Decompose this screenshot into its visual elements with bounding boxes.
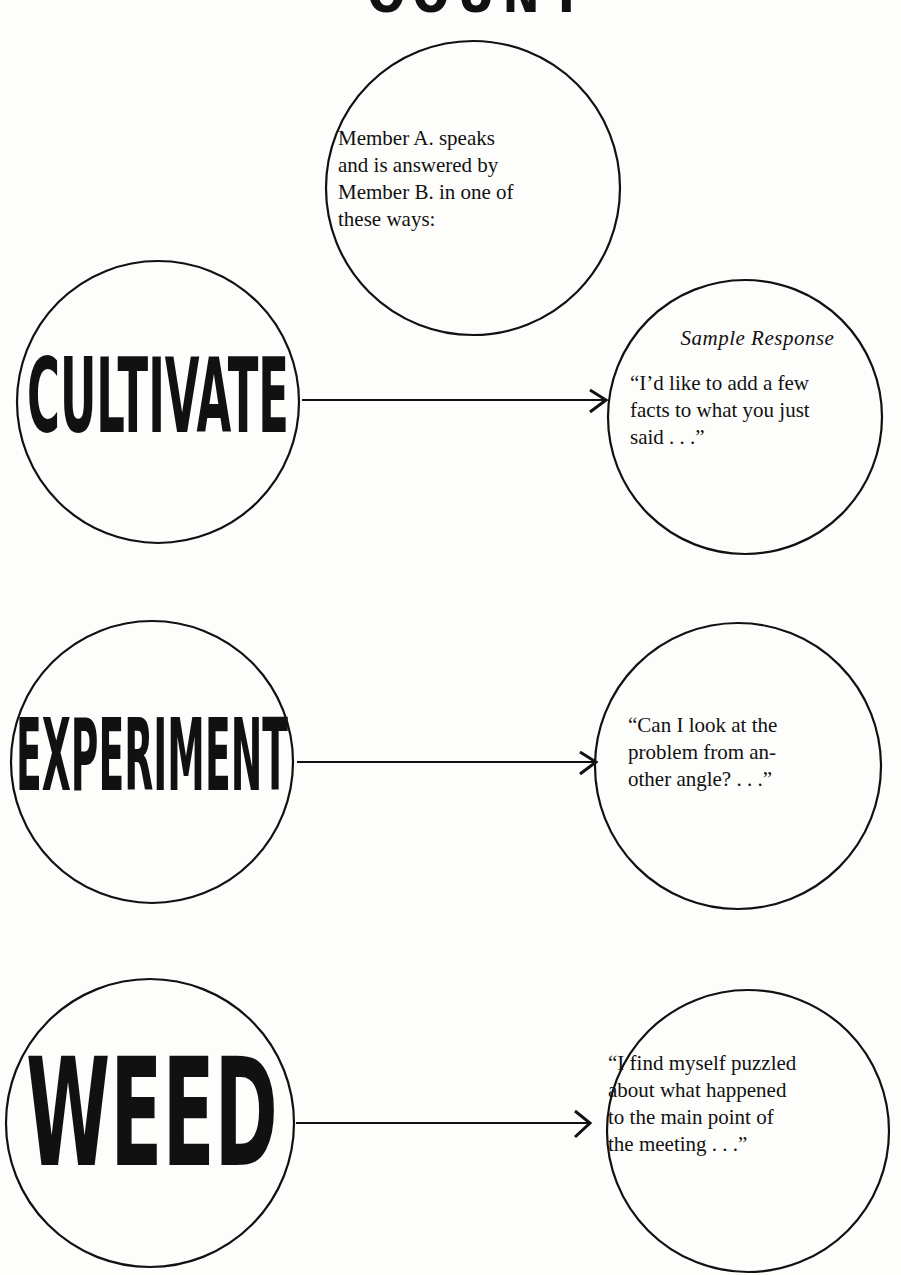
intro-line: these ways: [338,206,618,233]
intro-line: Member A. speaks [338,125,618,152]
sample-response-label: Sample Response [630,325,885,352]
word-cultivate: CULTIVATE [27,335,289,457]
response-line: problem from an- [628,739,868,766]
response-line: “I’d like to add a few [630,370,885,397]
word-weed: WEED [26,1026,278,1200]
response-line: about what happened [608,1077,876,1104]
response-line: “I find myself puzzled [608,1050,876,1077]
response-line: the meeting . . .” [608,1131,876,1158]
response-line: to the main point of [608,1104,876,1131]
response-text-2: “Can I look at the problem from an- othe… [628,712,868,793]
response-line: said . . .” [630,424,885,451]
intro-line: and is answered by [338,152,618,179]
response-text-3: “I find myself puzzled about what happen… [608,1050,876,1158]
response-line: “Can I look at the [628,712,868,739]
intro-text: Member A. speaks and is answered by Memb… [338,125,618,233]
intro-line: Member B. in one of [338,179,618,206]
word-experiment: EXPERIMENT [16,697,288,814]
response-line: other angle? . . .” [628,766,868,793]
response-text-1: Sample Response “I’d like to add a few f… [630,325,885,451]
response-line: facts to what you just [630,397,885,424]
